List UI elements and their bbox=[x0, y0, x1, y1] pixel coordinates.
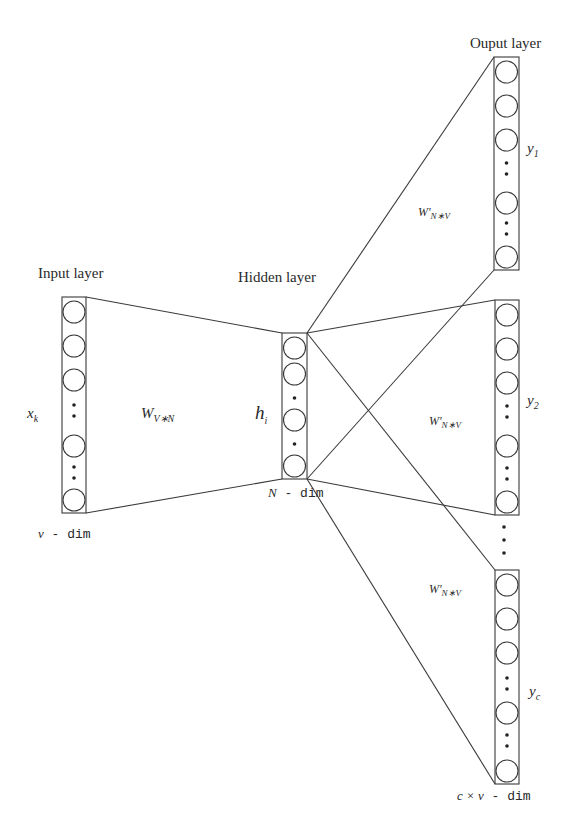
output-label-yc: yc bbox=[529, 683, 540, 702]
connector-line bbox=[307, 270, 494, 479]
hidden-layer-box bbox=[282, 333, 307, 479]
output-label-y2: y2 bbox=[527, 392, 539, 411]
output-dim-label: c × v - dim bbox=[457, 788, 531, 804]
input-layer-title: Input layer bbox=[38, 265, 103, 282]
hidden-layer-title: Hidden layer bbox=[238, 269, 316, 286]
hidden-variable-label: hi bbox=[255, 402, 267, 426]
hidden-dim-label: N - dim bbox=[268, 485, 323, 501]
network-diagram bbox=[0, 0, 582, 835]
connector-line bbox=[307, 57, 494, 333]
connector-line bbox=[307, 479, 495, 515]
connector-line bbox=[307, 300, 495, 333]
input-variable-label: xk bbox=[27, 405, 38, 424]
weight-label-input-hidden: WV∗N bbox=[141, 405, 174, 424]
ellipsis-dots bbox=[72, 161, 509, 748]
output-label-y1: y1 bbox=[527, 140, 539, 159]
connector-line bbox=[307, 479, 495, 784]
output-layer-title: Ouput layer bbox=[470, 35, 541, 52]
weight-label-hidden-output-3: W'N∗V bbox=[429, 582, 461, 598]
weight-label-hidden-output-1: W'N∗V bbox=[418, 205, 450, 221]
weight-label-hidden-output-2: W'N∗V bbox=[429, 414, 461, 430]
input-dim-label: v - dim bbox=[38, 526, 91, 542]
connector-line bbox=[86, 297, 282, 333]
connector-line bbox=[86, 479, 282, 513]
connector-line bbox=[307, 333, 495, 570]
